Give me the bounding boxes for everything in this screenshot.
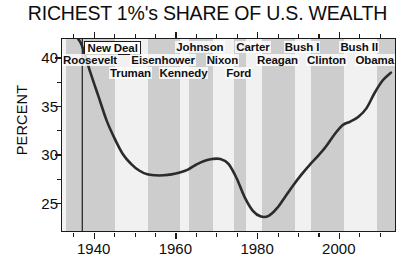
x-tick-1980: 1980 <box>240 241 273 256</box>
x-tick-1960: 1960 <box>159 241 192 256</box>
x-tick-2000: 2000 <box>322 241 355 256</box>
annotation-president-obama: Obama <box>355 54 396 66</box>
annotation-president-clinton: Clinton <box>306 54 347 66</box>
annotation-president-roosevelt: Roosevelt <box>62 54 118 66</box>
annotation-new-deal: New Deal <box>84 41 140 55</box>
annotation-president-nixon: Nixon <box>206 54 239 66</box>
x-tick-1940: 1940 <box>77 241 110 256</box>
chart-figure: RICHEST 1%'s SHARE OF U.S. WEALTH PERCEN… <box>0 0 415 271</box>
annotation-president-kennedy: Kennedy <box>159 67 209 79</box>
annotation-president-truman: Truman <box>109 67 152 79</box>
annotation-president-reagan: Reagan <box>256 54 299 66</box>
annotation-president-carter: Carter <box>235 41 270 53</box>
annotation-president-johnson: Johnson <box>175 41 224 53</box>
annotation-president-eisenhower: Eisenhower <box>130 54 196 66</box>
annotation-president-bush-i: Bush I <box>284 41 321 53</box>
annotation-president-ford: Ford <box>225 67 252 79</box>
annotation-president-bush-ii: Bush II <box>339 41 379 53</box>
